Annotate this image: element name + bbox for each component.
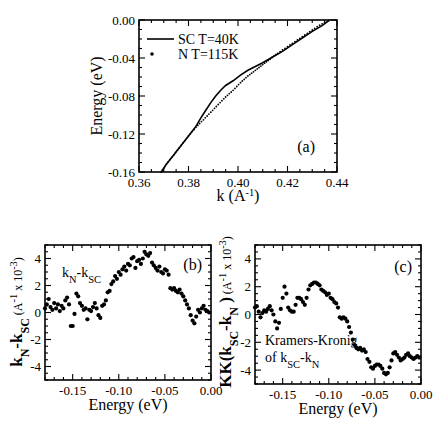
legend-label-sc: SC T=40K [178,32,239,47]
x-axis-title: k (A-1) [217,187,260,206]
y-tick-label: -4 [240,363,251,378]
x-axis-title: Energy (eV) [298,400,377,418]
y-tick-label: -0.16 [108,165,136,180]
x-tick-label: 0.44 [326,175,349,190]
legend-dot-icon [150,52,154,56]
annotation-of-ksc-kn: of kSC-kN [265,350,320,370]
y-tick-label: -0.12 [108,127,135,142]
legend-label-n: N T=115K [178,47,238,62]
y-axis-title: Energy (eV) [88,56,106,135]
y-tick-label: 4 [245,251,252,266]
panel-label: (b) [183,256,202,274]
y-tick-label: 4 [35,251,42,266]
y-tick-label: 2 [35,278,42,293]
x-tick-label: 0.38 [177,175,200,190]
panel-c: -0.15-0.10-0.050.00420-2-4Energy (eV)(c)… [216,236,432,418]
legend: SC T=40KN T=115K [147,32,239,62]
panel-a: 0.360.380.400.420.440.00-0.04-0.08-0.12-… [88,13,349,206]
y-tick-label: 2 [245,279,252,294]
y-axis-title: kN-kSC (A-1 x 10-3) [7,257,32,367]
y-tick-label: 0.00 [112,13,135,28]
y-tick-label: -0.04 [108,51,136,66]
x-tick-label: 0.42 [276,175,299,190]
panel-label: (c) [394,258,412,276]
x-tick-label: -0.15 [59,383,86,398]
y-tick-label: -0.08 [108,89,135,104]
y-tick-label: 0 [245,307,252,322]
panel-b: -0.15-0.10-0.050.00420-2-4Energy (eV)(b)… [7,245,222,414]
x-tick-label: -0.15 [269,387,296,402]
x-axis-title: Energy (eV) [88,396,167,414]
figure-canvas: 0.360.380.400.420.440.00-0.04-0.08-0.12-… [0,0,440,431]
annotation-kn-ksc: kN-kSC [62,265,101,285]
y-tick-label: -4 [30,359,41,374]
annotation-kramers-kronig: Kramers-Kronig [265,333,358,348]
y-tick-label: -2 [240,335,251,350]
y-tick-label: 0 [35,305,42,320]
y-axis-title: KK(kSC-kN ) (A-1 x 10-3) [216,236,241,388]
x-tick-label: 0.00 [410,387,433,402]
panel-label: (a) [297,138,315,156]
